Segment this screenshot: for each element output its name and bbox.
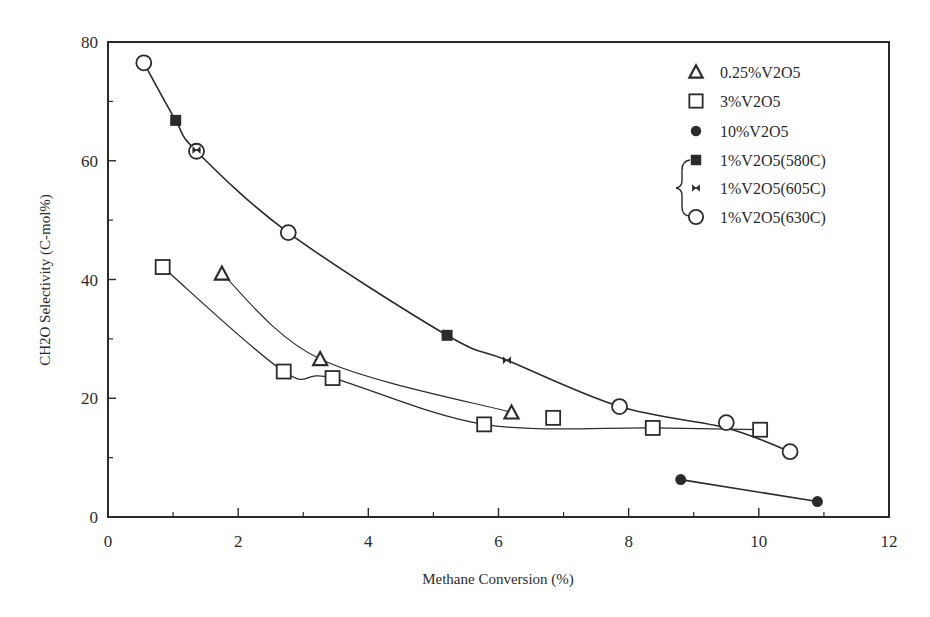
filled-circle-marker: [675, 474, 686, 485]
open-square-marker: [546, 411, 560, 425]
open-triangle-marker: [689, 65, 702, 77]
fit-curves: [144, 63, 818, 502]
legend-label: 1%V2O5(605C): [720, 180, 826, 198]
filled-circle-marker: [812, 496, 823, 507]
open-circle-marker: [189, 144, 204, 159]
open-square-marker: [753, 423, 767, 437]
y-tick-label: 40: [81, 271, 98, 290]
open-triangle-marker: [505, 406, 519, 419]
legend-brace: [676, 160, 690, 216]
x-tick-label: 0: [104, 532, 113, 551]
x-axis-title: Methane Conversion (%): [422, 571, 574, 588]
x-tick-label: 8: [624, 532, 633, 551]
x-tick-label: 10: [750, 532, 767, 551]
fit-curve: [222, 274, 512, 413]
open-triangle-marker: [313, 352, 327, 365]
open-circle-marker: [689, 210, 703, 224]
fit-curve: [681, 480, 818, 502]
legend-item: 1%V2O5(580C): [691, 152, 826, 170]
open-triangle-marker: [215, 267, 229, 280]
x-tick-label: 4: [364, 532, 373, 551]
filled-square-marker: [442, 330, 453, 341]
y-axis-title: CH2O Selectivity (C-mol%): [37, 194, 54, 366]
open-circle-marker: [136, 55, 151, 70]
x-tick-label: 12: [881, 532, 898, 551]
open-circle-marker: [612, 399, 627, 414]
open-square-marker: [477, 417, 491, 431]
filled-square-marker: [691, 155, 701, 165]
x-tick-label: 2: [234, 532, 243, 551]
legend-item: 1%V2O5(630C): [689, 209, 826, 227]
open-circle-marker: [281, 225, 296, 240]
legend-label: 1%V2O5(580C): [720, 152, 826, 170]
filled-circle-marker: [691, 126, 701, 136]
open-circle-marker: [719, 415, 734, 430]
legend-item: 3%V2O5: [689, 93, 780, 110]
open-square-marker: [689, 94, 702, 107]
bowtie-marker: [503, 356, 511, 364]
bowtie-marker: [692, 184, 700, 192]
legend-item: 1%V2O5(605C): [692, 180, 826, 198]
open-square-marker: [277, 365, 291, 379]
axis-tick-labels: 024681012020406080: [81, 33, 898, 551]
legend: 0.25%V2O53%V2O510%V2O51%V2O5(580C)1%V2O5…: [676, 64, 826, 227]
y-tick-label: 0: [90, 508, 99, 527]
legend-item: 10%V2O5: [691, 123, 789, 140]
open-square-marker: [156, 260, 170, 274]
fit-curve: [144, 63, 790, 452]
open-square-marker: [646, 421, 660, 435]
legend-item: 0.25%V2O5: [689, 64, 800, 81]
fit-curve: [163, 267, 760, 430]
filled-square-marker: [170, 115, 181, 126]
legend-label: 10%V2O5: [720, 123, 788, 140]
legend-label: 0.25%V2O5: [720, 64, 800, 81]
open-circle-marker: [783, 444, 798, 459]
y-tick-label: 60: [81, 152, 98, 171]
legend-label: 1%V2O5(630C): [720, 209, 826, 227]
legend-label: 3%V2O5: [720, 93, 780, 110]
x-tick-label: 6: [494, 532, 503, 551]
y-tick-label: 80: [81, 33, 98, 52]
y-tick-label: 20: [81, 389, 98, 408]
open-square-marker: [326, 371, 340, 385]
chart: 024681012020406080 Methane Conversion (%…: [0, 0, 930, 617]
